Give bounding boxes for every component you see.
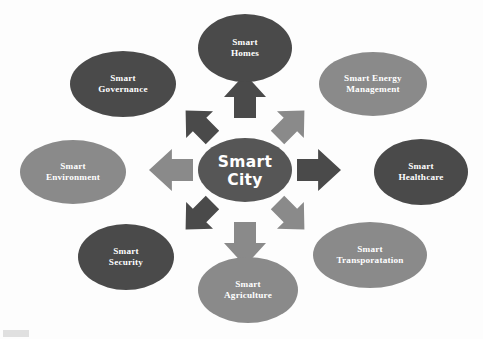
node-smart-homes[interactable]: Smart Homes — [198, 14, 292, 82]
node-smart-transporatation-label-line1: Smart — [357, 244, 383, 254]
node-smart-healthcare-label-line2: Healthcare — [398, 172, 443, 182]
node-smart-governance-label-line2: Governance — [98, 84, 147, 94]
node-smart-transporatation-label-line2: Transporatation — [336, 255, 403, 265]
page-artifact-mark — [3, 330, 29, 337]
node-smart-agriculture-label-line1: Smart — [235, 279, 261, 289]
node-smart-energy-management[interactable]: Smart Energy Management — [319, 52, 427, 116]
node-smart-environment-label-line2: Environment — [46, 172, 101, 182]
node-smart-security-label-line2: Security — [109, 257, 143, 267]
node-smart-homes-label-line1: Smart — [232, 37, 258, 47]
smart-city-diagram: Smart Homes Smart Energy Management Smar… — [0, 0, 483, 339]
node-smart-security[interactable]: Smart Security — [78, 224, 174, 290]
center-label-line2: City — [227, 171, 262, 189]
node-smart-agriculture-label-line2: Agriculture — [224, 290, 272, 300]
node-smart-city-center[interactable]: Smart City — [198, 138, 292, 202]
node-smart-energy-management-label-line1: Smart Energy — [344, 73, 402, 83]
center-label-line1: Smart — [218, 153, 273, 171]
node-smart-agriculture[interactable]: Smart Agriculture — [198, 257, 298, 323]
node-smart-healthcare[interactable]: Smart Healthcare — [374, 139, 468, 205]
diagram-canvas-svg: Smart Homes Smart Energy Management Smar… — [0, 0, 483, 339]
node-smart-energy-management-label-line2: Management — [346, 84, 400, 94]
node-smart-healthcare-label-line1: Smart — [408, 161, 434, 171]
node-smart-governance-label-line1: Smart — [110, 73, 136, 83]
node-smart-environment-label-line1: Smart — [60, 161, 86, 171]
node-smart-security-label-line1: Smart — [113, 246, 139, 256]
node-smart-homes-label-line2: Homes — [231, 48, 259, 58]
node-smart-transporatation[interactable]: Smart Transporatation — [313, 222, 427, 288]
node-smart-environment[interactable]: Smart Environment — [20, 140, 126, 204]
node-smart-governance[interactable]: Smart Governance — [70, 51, 176, 117]
